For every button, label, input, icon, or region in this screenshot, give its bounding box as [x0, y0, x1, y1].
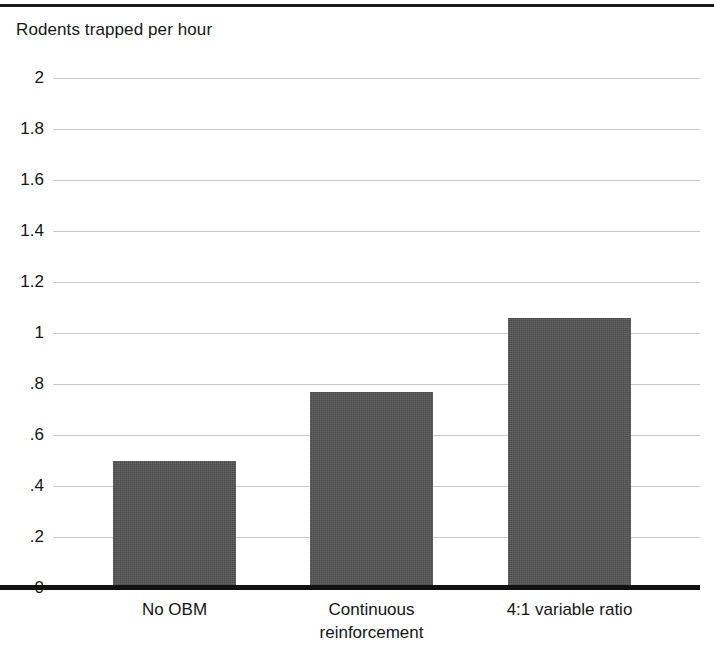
- bar: [508, 318, 631, 588]
- y-axis-tick-labels: 0.2.4.6.811.21.41.61.82: [0, 78, 44, 588]
- plot-area: [53, 78, 700, 588]
- y-axis-tick-label: 1.2: [20, 272, 44, 292]
- x-axis-category-labels: No OBMContinuousreinforcement4:1 variabl…: [0, 598, 714, 661]
- y-axis-tick-label: 1.6: [20, 170, 44, 190]
- x-axis-category-label: Continuousreinforcement: [272, 598, 472, 644]
- bar: [113, 461, 236, 589]
- x-axis-label-line: No OBM: [75, 598, 275, 621]
- y-axis-tick-label: .6: [30, 425, 44, 445]
- x-axis-category-label: 4:1 variable ratio: [470, 598, 670, 621]
- y-axis-tick-label: 1: [35, 323, 44, 343]
- bar: [310, 392, 433, 588]
- bar-chart-figure: Rodents trapped per hour 0.2.4.6.811.21.…: [0, 0, 714, 661]
- gridline: [53, 78, 700, 79]
- gridline: [53, 129, 700, 130]
- x-axis-baseline: [0, 585, 700, 590]
- y-axis-tick-label: 2: [35, 68, 44, 88]
- y-axis-tick-label: .4: [30, 476, 44, 496]
- x-axis-label-line: 4:1 variable ratio: [470, 598, 670, 621]
- y-axis-tick-label: .2: [30, 527, 44, 547]
- gridline: [53, 282, 700, 283]
- top-border-rule: [0, 4, 714, 7]
- y-axis-tick-label: 1.8: [20, 119, 44, 139]
- y-axis-tick-label: 1.4: [20, 221, 44, 241]
- x-axis-label-line: reinforcement: [272, 621, 472, 644]
- x-axis-category-label: No OBM: [75, 598, 275, 621]
- gridline: [53, 231, 700, 232]
- gridline: [53, 180, 700, 181]
- x-axis-label-line: Continuous: [272, 598, 472, 621]
- y-axis-tick-label: .8: [30, 374, 44, 394]
- chart-title: Rodents trapped per hour: [16, 20, 212, 40]
